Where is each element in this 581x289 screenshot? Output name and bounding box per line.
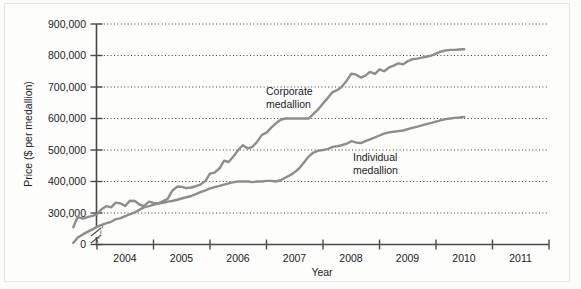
y-tick-label: 600,000 [48, 112, 86, 124]
x-tick-label: 2005 [170, 252, 194, 264]
series-line [73, 117, 464, 243]
y-tick-label: 0 [80, 238, 86, 250]
y-tick-label: 400,000 [48, 175, 86, 187]
corporate-series-annotation-line1: Corporate [266, 85, 313, 97]
x-tick-label: 2008 [339, 252, 363, 264]
y-tick-label: 800,000 [48, 49, 86, 61]
series-line [73, 49, 464, 227]
y-tick-labels-group: 0300,000400,000500,000600,000700,000800,… [48, 18, 86, 251]
x-tick-label: 2011 [509, 252, 532, 264]
data-series-group [73, 49, 464, 243]
y-tick-label: 500,000 [48, 144, 86, 156]
gridlines-group [97, 24, 549, 213]
series-start-dash [97, 225, 103, 244]
line-chart: 0300,000400,000500,000600,000700,000800,… [0, 0, 581, 289]
x-tick-label: 2004 [113, 252, 137, 264]
individual-series-annotation-line1: Individual [353, 151, 397, 163]
x-tick-label: 2009 [396, 252, 420, 264]
x-tick-labels-group: 20042005200620072008200920102011 [113, 252, 532, 264]
x-tick-label: 2010 [452, 252, 476, 264]
individual-series-annotation-line2: medallion [353, 164, 398, 176]
y-tick-label: 700,000 [48, 81, 86, 93]
figure-container: 0300,000400,000500,000600,000700,000800,… [0, 0, 581, 289]
corporate-series-annotation-line2: medallion [266, 98, 311, 110]
x-tick-label: 2006 [226, 252, 250, 264]
y-tick-label: 900,000 [48, 18, 86, 30]
y-axis-title: Price ($ per medallion) [22, 81, 34, 187]
x-tick-label: 2007 [283, 252, 307, 264]
x-axis-title: Year [311, 266, 333, 278]
